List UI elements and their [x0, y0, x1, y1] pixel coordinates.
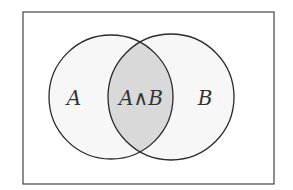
venn-diagram: A A∧B B: [0, 0, 293, 190]
set-b-label: B: [197, 86, 213, 110]
set-a-label: A: [65, 86, 81, 110]
intersection-label: A∧B: [117, 86, 163, 110]
